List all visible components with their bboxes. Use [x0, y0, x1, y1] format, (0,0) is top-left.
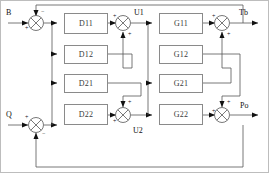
block-g21[interactable]: G21 [159, 74, 203, 93]
signal-label-u1: U1 [134, 8, 144, 17]
sign-sum-u2-top: + [128, 99, 131, 105]
block-d11[interactable]: D11 [64, 13, 108, 34]
sign-sum-u1-left: + [113, 13, 116, 19]
signal-label-po: Po [240, 101, 248, 110]
block-d22[interactable]: D22 [64, 104, 108, 125]
sign-sum-u2-left: + [113, 118, 116, 124]
signal-label-q: Q [6, 110, 12, 119]
block-g12-label: G12 [174, 50, 188, 59]
signal-label-u2: U2 [133, 126, 143, 135]
block-g11-label: G11 [174, 19, 188, 28]
signal-label-tb: Tb [239, 8, 248, 17]
signal-label-b: B [6, 8, 11, 17]
block-d11-label: D11 [79, 19, 93, 28]
sign-sum-b-top: − [41, 8, 44, 14]
block-d12-label: D12 [79, 50, 93, 59]
sign-sum-po-left: + [212, 108, 215, 114]
sign-sum-po-top: + [227, 99, 230, 105]
sign-sum-q-left: + [25, 114, 28, 120]
block-d22-label: D22 [79, 110, 93, 119]
sign-sum-q-bottom: − [42, 130, 45, 136]
block-d21[interactable]: D21 [64, 74, 108, 93]
block-d12[interactable]: D12 [64, 45, 108, 64]
sign-sum-u1-bottom: + [128, 31, 131, 37]
sign-sum-tb-bottom: + [227, 31, 230, 37]
block-g22[interactable]: G22 [159, 104, 203, 125]
wiring-layer [0, 0, 270, 174]
block-diagram-canvas: D11 D12 D21 D22 G11 G12 G21 G22 B Q U1 U… [0, 0, 270, 174]
block-g22-label: G22 [174, 110, 188, 119]
sign-sum-tb-left: + [212, 13, 215, 19]
block-d21-label: D21 [79, 79, 93, 88]
block-g21-label: G21 [174, 79, 188, 88]
block-g12[interactable]: G12 [159, 45, 203, 64]
block-g11[interactable]: G11 [159, 13, 203, 34]
sign-sum-b-left: + [25, 25, 28, 31]
